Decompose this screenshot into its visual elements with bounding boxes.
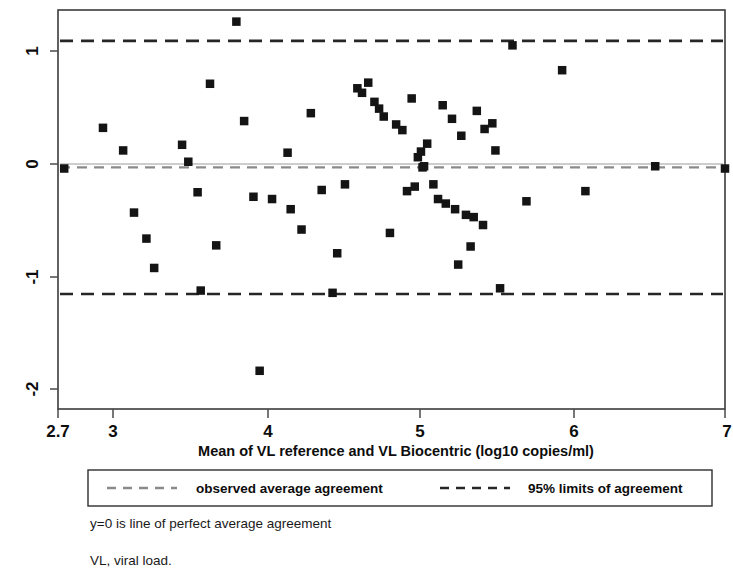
data-point: [328, 289, 337, 298]
x-axis-tick-labels: 2.7 3 4 5 6 7: [46, 422, 732, 441]
y-axis-ticks: [50, 51, 58, 389]
data-point: [130, 208, 139, 217]
data-point: [480, 125, 489, 134]
data-point: [398, 126, 407, 135]
data-point: [466, 242, 475, 251]
data-point: [212, 241, 221, 250]
data-point: [60, 164, 68, 173]
x-axis-title: Mean of VL reference and VL Biocentric (…: [198, 443, 594, 459]
data-point: [479, 221, 488, 230]
scatter-markers-group: [60, 17, 729, 375]
data-point: [206, 80, 215, 89]
data-point: [193, 188, 202, 197]
data-point: [442, 199, 451, 208]
x-tick-label-3: 3: [108, 422, 117, 441]
data-point: [454, 260, 463, 269]
data-point: [522, 197, 531, 206]
y-tick-label-neg2: -2: [23, 381, 42, 396]
data-point: [558, 66, 567, 75]
data-point: [429, 180, 438, 189]
x-tick-label-5: 5: [415, 422, 424, 441]
data-point: [297, 225, 306, 234]
data-point: [119, 146, 128, 155]
data-point: [581, 187, 590, 196]
data-point: [721, 164, 730, 173]
data-point: [417, 147, 426, 156]
y-tick-label-0: 0: [23, 159, 42, 168]
data-point: [469, 213, 478, 222]
data-point: [286, 205, 295, 214]
plot-frame: [58, 10, 725, 409]
data-point: [438, 101, 447, 110]
data-point: [307, 109, 316, 118]
data-point: [457, 132, 466, 141]
legend: observed average agreement 95% limits of…: [88, 470, 712, 506]
x-tick-label-4: 4: [263, 422, 273, 441]
data-point: [178, 141, 187, 150]
bland-altman-figure: 1 0 -1 -2 2.7 3 4 5 6 7 Mean of VL refer…: [0, 0, 733, 577]
legend-label-limits: 95% limits of agreement: [528, 481, 683, 496]
x-tick-label-6: 6: [569, 422, 578, 441]
x-tick-label-2-7: 2.7: [46, 422, 70, 441]
data-point: [232, 17, 241, 26]
data-point: [407, 94, 416, 103]
data-point: [379, 112, 388, 121]
data-point: [451, 205, 460, 214]
data-point: [488, 119, 497, 128]
note-abbreviation: VL, viral load.: [90, 553, 172, 568]
note-perfect-agreement: y=0 is line of perfect average agreement: [90, 516, 332, 531]
data-point: [403, 187, 412, 196]
data-point: [473, 107, 482, 116]
data-point: [386, 229, 395, 238]
legend-label-observed: observed average agreement: [196, 481, 383, 496]
reference-lines-group: [60, 41, 723, 294]
data-point: [142, 234, 151, 243]
data-point: [411, 182, 420, 191]
data-point: [240, 117, 249, 126]
data-point: [184, 157, 193, 166]
data-point: [341, 180, 350, 189]
data-point: [462, 211, 471, 220]
x-axis-ticks: [58, 409, 725, 418]
data-point: [196, 286, 205, 295]
data-point: [268, 195, 277, 204]
data-point: [423, 139, 432, 148]
data-point: [434, 195, 443, 204]
data-point: [364, 78, 373, 87]
y-axis-tick-labels: 1 0 -1 -2: [23, 46, 42, 396]
data-point: [491, 146, 500, 155]
plot-svg: 1 0 -1 -2 2.7 3 4 5 6 7 Mean of VL refer…: [0, 0, 733, 577]
x-tick-label-7: 7: [722, 422, 731, 441]
y-tick-label-neg1: -1: [23, 269, 42, 284]
data-point: [375, 104, 384, 113]
data-point: [651, 162, 660, 171]
data-point: [150, 264, 159, 273]
data-point: [496, 284, 505, 293]
data-point: [255, 367, 264, 376]
data-point: [333, 249, 342, 258]
data-point: [249, 193, 258, 202]
data-point: [317, 186, 326, 195]
y-tick-label-1: 1: [23, 46, 42, 55]
data-point: [283, 148, 292, 157]
data-point: [358, 89, 367, 98]
data-point: [420, 162, 429, 171]
data-point: [448, 115, 457, 124]
data-point: [99, 124, 108, 133]
data-point: [508, 41, 517, 50]
